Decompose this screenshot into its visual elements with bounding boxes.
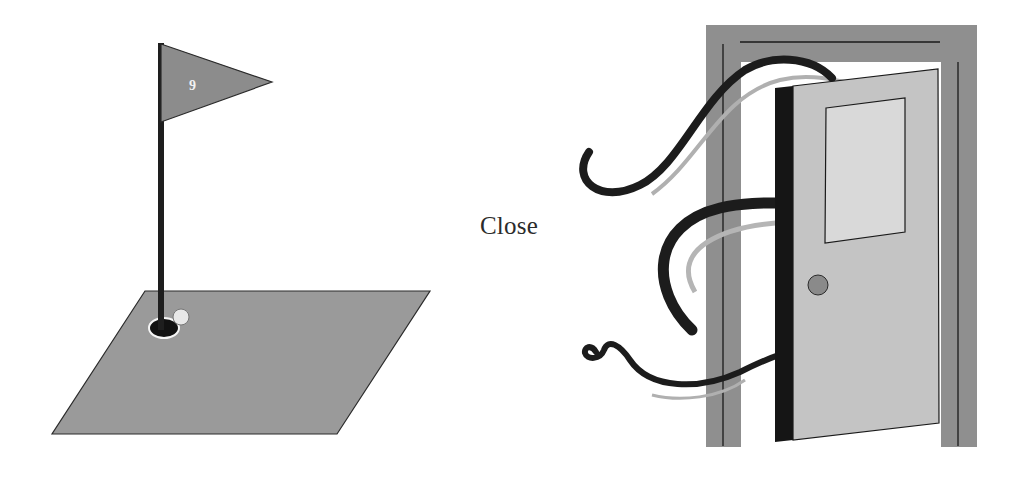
putting-green bbox=[52, 291, 430, 434]
door-knob bbox=[808, 275, 828, 295]
caption-close: Close bbox=[480, 212, 538, 240]
golf-ball bbox=[173, 309, 189, 325]
door-frame-right-jamb bbox=[941, 62, 977, 447]
open-door-illustration bbox=[583, 25, 977, 447]
door-edge bbox=[775, 86, 793, 442]
flag-icon bbox=[161, 44, 272, 122]
door-window bbox=[825, 98, 905, 243]
figure-canvas: 9 bbox=[0, 0, 1027, 479]
golf-green-illustration: 9 bbox=[52, 43, 430, 434]
flag-number: 9 bbox=[189, 78, 196, 93]
